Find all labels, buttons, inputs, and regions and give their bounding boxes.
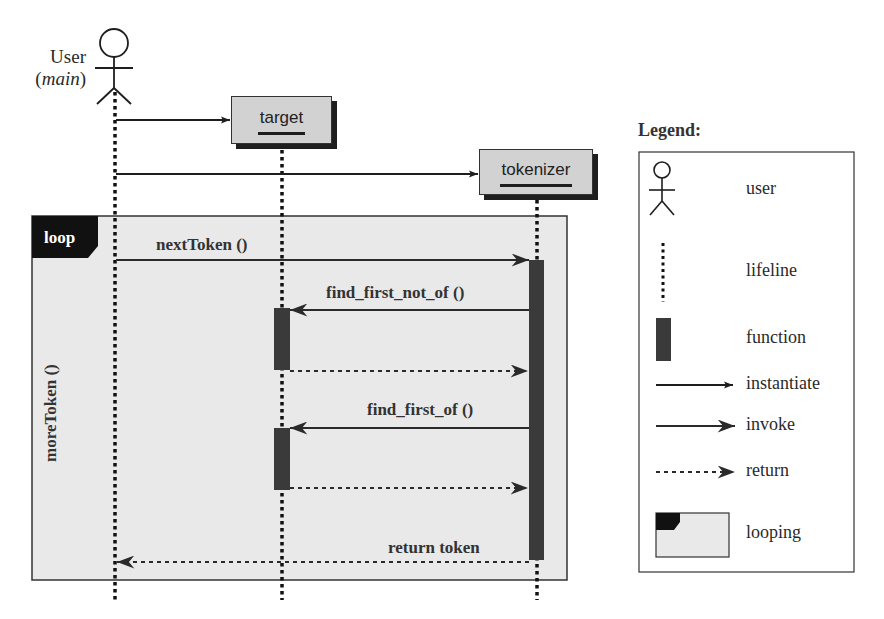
loop-frame	[32, 216, 567, 580]
legend-label-lifeline: lifeline	[746, 260, 797, 281]
message-label-find-first-of: find_first_of ()	[367, 400, 473, 420]
legend-box	[639, 152, 854, 572]
object-target-label: target	[258, 107, 305, 135]
legend-label-user: user	[746, 178, 776, 199]
loop-condition: moreToken ()	[41, 364, 61, 462]
message-label-return-token: return token	[388, 538, 480, 558]
legend-label-invoke: invoke	[746, 414, 795, 435]
actor-label: User (main)	[28, 46, 86, 90]
target-activation-bar-1	[274, 308, 290, 370]
legend-label-function: function	[746, 327, 806, 348]
actor-name: User	[28, 46, 86, 68]
legend-label-return: return	[746, 460, 789, 481]
legend-label-looping: looping	[746, 522, 801, 543]
object-tokenizer[interactable]: tokenizer	[479, 149, 593, 195]
actor-role: (main)	[28, 68, 86, 90]
message-label-find-first-not-of: find_first_not_of ()	[326, 283, 464, 303]
legend-looping-icon	[656, 513, 729, 557]
message-label-nextToken: nextToken ()	[156, 235, 247, 255]
legend-function-icon	[656, 318, 671, 361]
tokenizer-activation-bar	[529, 260, 544, 560]
target-activation-bar-2	[274, 428, 290, 490]
object-target[interactable]: target	[231, 96, 332, 144]
legend-title: Legend:	[638, 120, 701, 141]
loop-tag: loop	[44, 228, 75, 248]
object-tokenizer-label: tokenizer	[500, 159, 573, 187]
legend-label-instantiate: instantiate	[746, 373, 820, 394]
